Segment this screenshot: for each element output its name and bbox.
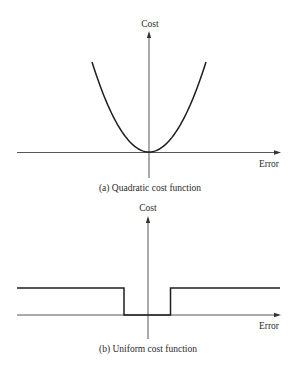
panel-uniform: Cost Error (b) Uniform cost function [17, 203, 281, 355]
panel-quadratic: Cost Error (a) Quadratic cost function [17, 19, 281, 194]
y-axis-arrow-b [146, 216, 150, 223]
figure-canvas: Cost Error (a) Quadratic cost function C… [0, 0, 295, 367]
x-axis-arrow-a [274, 150, 281, 154]
y-axis-arrow-a [147, 31, 151, 38]
y-axis-label-b: Cost [139, 203, 157, 213]
x-axis-label-a: Error [259, 159, 280, 169]
y-axis-label-a: Cost [141, 19, 159, 29]
caption-a: (a) Quadratic cost function [99, 183, 201, 194]
x-axis-arrow-b [274, 313, 281, 317]
uniform-cost-curve [17, 288, 280, 315]
caption-b: (b) Uniform cost function [99, 344, 197, 355]
x-axis-label-b: Error [259, 321, 280, 331]
